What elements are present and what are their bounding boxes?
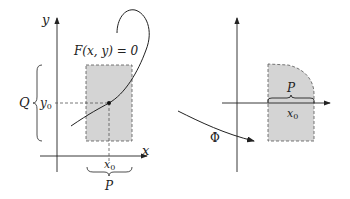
phi-label: Φ xyxy=(210,131,220,145)
Q-label: Q xyxy=(19,95,30,110)
point-x0-y0 xyxy=(107,101,111,105)
y0-label: y0 xyxy=(39,96,52,111)
right-panel: P x0 Φ xyxy=(178,18,330,172)
x-axis-label: x xyxy=(142,143,150,158)
implicit-function-diagram: y x F(x, y) = 0 x0 y0 P Q P x0 Φ xyxy=(0,0,350,199)
P-label: P xyxy=(104,179,114,193)
y-axis-label: y xyxy=(41,12,50,27)
equation-label: F(x, y) = 0 xyxy=(73,44,139,58)
P-label-right: P xyxy=(286,81,296,95)
image-region xyxy=(268,64,314,141)
left-panel: y x F(x, y) = 0 x0 y0 P Q xyxy=(19,10,150,193)
x0-label: x0 xyxy=(104,158,115,172)
